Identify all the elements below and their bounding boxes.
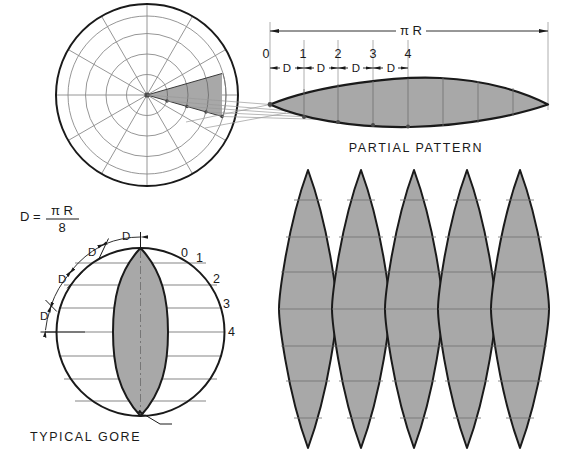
arc-label-0: D <box>122 230 130 242</box>
technical-drawing: π R 0 1 2 3 4 D D D D <box>0 0 570 463</box>
station-label-2: 2 <box>335 47 342 61</box>
segment-label-2: D <box>352 62 360 74</box>
station-label-3: 3 <box>370 47 377 61</box>
formula-numerator: π R <box>51 203 73 218</box>
arc-label-2: D <box>58 273 66 285</box>
sphere-lat-label-2: 2 <box>213 272 220 286</box>
arc-label-3: D <box>40 310 48 322</box>
figure-canvas: π R 0 1 2 3 4 D D D D <box>0 0 570 463</box>
station-label-1: 1 <box>300 47 307 61</box>
station-label-0: 0 <box>263 47 270 61</box>
segment-label-0: D <box>283 62 291 74</box>
partial-pattern-label: PARTIAL PATTERN <box>349 141 483 155</box>
formula-equals: = <box>33 209 41 224</box>
sphere-lat-label-1: 1 <box>196 251 203 265</box>
sphere-lat-label-3: 3 <box>223 297 230 311</box>
typical-gore-label: TYPICAL GORE <box>30 430 141 444</box>
station-label-4: 4 <box>405 47 412 61</box>
sphere-lat-label-0: 0 <box>181 246 188 260</box>
overall-dimension-label: π R <box>400 23 422 38</box>
arc-label-1: D <box>88 246 96 258</box>
segment-label-1: D <box>317 62 325 74</box>
formula-denominator: 8 <box>58 220 65 235</box>
segment-label-3: D <box>387 62 395 74</box>
gore-array <box>279 170 549 448</box>
formula-lhs: D <box>20 209 29 224</box>
sphere-lat-label-4: 4 <box>228 325 235 339</box>
